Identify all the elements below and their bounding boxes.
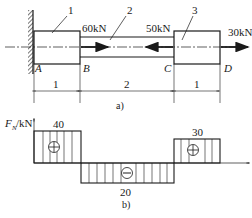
axial-force-diagram: F N /kN 40 20 [4,117,249,211]
dimension-CD: 1 [194,78,200,90]
bar-diagram: 1 2 3 60kN 50kN 30kN A B C D 1 2 1 a) [5,4,252,112]
segment-1 [34,31,80,64]
segment-number-2: 2 [127,4,133,16]
value-BC: 20 [120,186,132,198]
segment-number-3: 3 [192,4,198,16]
value-CD: 30 [192,126,204,138]
caption-a: a) [116,100,124,112]
dimension-BC: 2 [124,78,130,90]
axis-label-unit: /kN [16,117,33,129]
fixed-wall [28,10,33,74]
point-C: C [164,62,172,74]
dimension-AB: 1 [53,78,59,90]
force-label-50kN: 50kN [146,22,171,34]
segment-number-1: 1 [68,4,74,16]
point-D: D [223,62,232,74]
point-B: B [83,62,90,74]
segment-3 [174,31,220,64]
force-label-30kN: 30kN [228,26,252,38]
point-A: A [34,62,42,74]
axial-force-figure: 1 2 3 60kN 50kN 30kN A B C D 1 2 1 a) [0,0,252,218]
value-AB: 40 [53,118,65,130]
force-label-60kN: 60kN [82,22,107,34]
axis-label-F: F [4,117,12,129]
caption-b: b) [122,199,130,211]
